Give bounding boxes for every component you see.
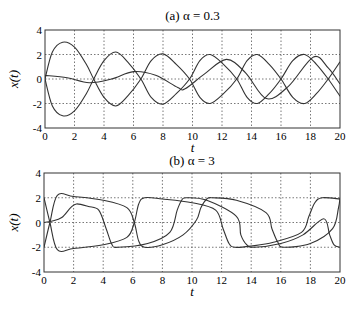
x-tick-label: 6 <box>130 274 136 286</box>
y-axis-label: x(t) <box>6 213 21 232</box>
x-tick-label: 20 <box>335 130 347 142</box>
y-tick-label: 2 <box>37 49 43 61</box>
x-tick-label: 12 <box>216 274 227 286</box>
x-tick-label: 0 <box>41 274 47 286</box>
y-tick-label: 0 <box>36 217 42 229</box>
chart-figure: 02468101214161820420-2-4(a) α = 0.3tx(t)… <box>0 0 359 312</box>
y-tick-label: -4 <box>32 266 42 278</box>
y-tick-label: 4 <box>36 167 42 179</box>
x-tick-label: 0 <box>42 130 48 142</box>
y-tick-label: 4 <box>37 24 43 36</box>
y-tick-label: -2 <box>32 241 41 253</box>
y-tick-label: 0 <box>37 73 43 85</box>
x-axis-label: t <box>190 284 194 299</box>
x-tick-label: 16 <box>276 130 288 142</box>
x-tick-label: 16 <box>275 274 287 286</box>
y-axis-label: x(t) <box>6 70 21 89</box>
x-tick-label: 6 <box>131 130 137 142</box>
x-tick-label: 18 <box>305 130 317 142</box>
x-tick-label: 14 <box>246 274 258 286</box>
x-tick-label: 18 <box>305 274 317 286</box>
x-tick-label: 2 <box>72 130 78 142</box>
panel-b: 02468101214161820420-2-4(b) α = 3tx(t) <box>6 153 346 299</box>
x-tick-label: 20 <box>335 274 347 286</box>
x-tick-label: 8 <box>160 274 166 286</box>
x-tick-label: 4 <box>100 274 106 286</box>
chart-title: (a) α = 0.3 <box>165 8 220 23</box>
panel-a: 02468101214161820420-2-4(a) α = 0.3tx(t) <box>6 8 346 155</box>
chart-title: (b) α = 3 <box>169 153 215 168</box>
x-tick-label: 12 <box>217 130 228 142</box>
y-tick-label: -2 <box>33 98 42 110</box>
x-tick-label: 8 <box>160 130 166 142</box>
y-tick-label: -4 <box>33 122 43 134</box>
x-tick-label: 14 <box>246 130 258 142</box>
y-tick-label: 2 <box>36 192 42 204</box>
x-tick-label: 2 <box>71 274 77 286</box>
x-tick-label: 4 <box>101 130 107 142</box>
